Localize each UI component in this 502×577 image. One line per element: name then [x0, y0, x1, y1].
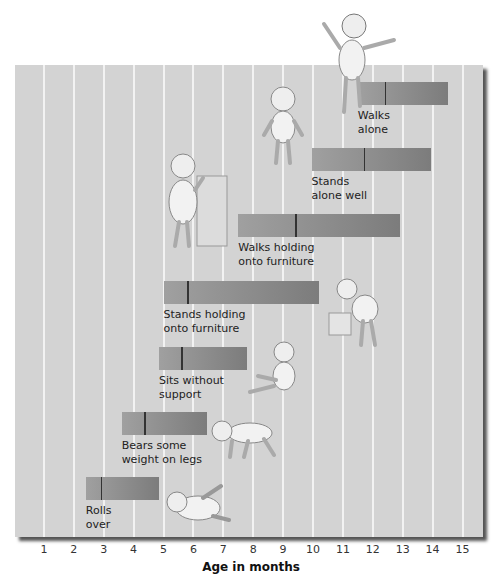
milestone-bar [164, 281, 319, 304]
x-tick-label: 6 [190, 543, 197, 556]
x-axis-label: Age in months [0, 560, 502, 574]
gridline [43, 65, 45, 537]
median-marker [181, 347, 183, 370]
x-tick-label: 4 [130, 543, 137, 556]
x-tick-label: 1 [40, 543, 47, 556]
baby-walking-icon [318, 8, 398, 118]
gridline [103, 65, 105, 537]
milestone-bar [238, 214, 399, 237]
gridline [432, 65, 434, 537]
milestone-bar [122, 412, 207, 435]
milestone-label: Rolls over [86, 504, 112, 532]
milestone-label: Stands holding onto furniture [164, 308, 246, 336]
milestone-bar [312, 148, 432, 171]
baby-cruising-icon [163, 150, 233, 250]
baby-crawling-icon [208, 415, 283, 460]
baby-sitting-icon [244, 340, 304, 400]
median-marker [364, 148, 366, 171]
baby-standing-alone-icon [258, 85, 308, 165]
median-marker [295, 214, 297, 237]
median-marker [101, 477, 103, 500]
gridline [462, 65, 464, 537]
x-tick-label: 10 [306, 543, 320, 556]
median-marker [144, 412, 146, 435]
x-tick-label: 5 [160, 543, 167, 556]
milestone-bar [86, 477, 159, 500]
x-tick-label: 9 [280, 543, 287, 556]
milestone-bar [159, 347, 247, 370]
gridline [402, 65, 404, 537]
x-tick-label: 2 [70, 543, 77, 556]
median-marker [187, 281, 189, 304]
x-tick-label: 3 [100, 543, 107, 556]
x-tick-label: 13 [396, 543, 410, 556]
baby-rolling-icon [163, 480, 233, 525]
milestone-label: Bears some weight on legs [122, 439, 202, 467]
x-tick-label: 12 [366, 543, 380, 556]
baby-standing-holding-icon [327, 275, 382, 350]
x-tick-label: 11 [336, 543, 350, 556]
x-tick-label: 8 [250, 543, 257, 556]
gridline [73, 65, 75, 537]
milestone-label: Stands alone well [312, 175, 368, 203]
x-tick-label: 14 [426, 543, 440, 556]
x-tick-label: 15 [456, 543, 470, 556]
x-tick-label: 7 [220, 543, 227, 556]
milestone-label: Sits without support [159, 374, 224, 402]
milestone-label: Walks holding onto furniture [238, 241, 314, 269]
